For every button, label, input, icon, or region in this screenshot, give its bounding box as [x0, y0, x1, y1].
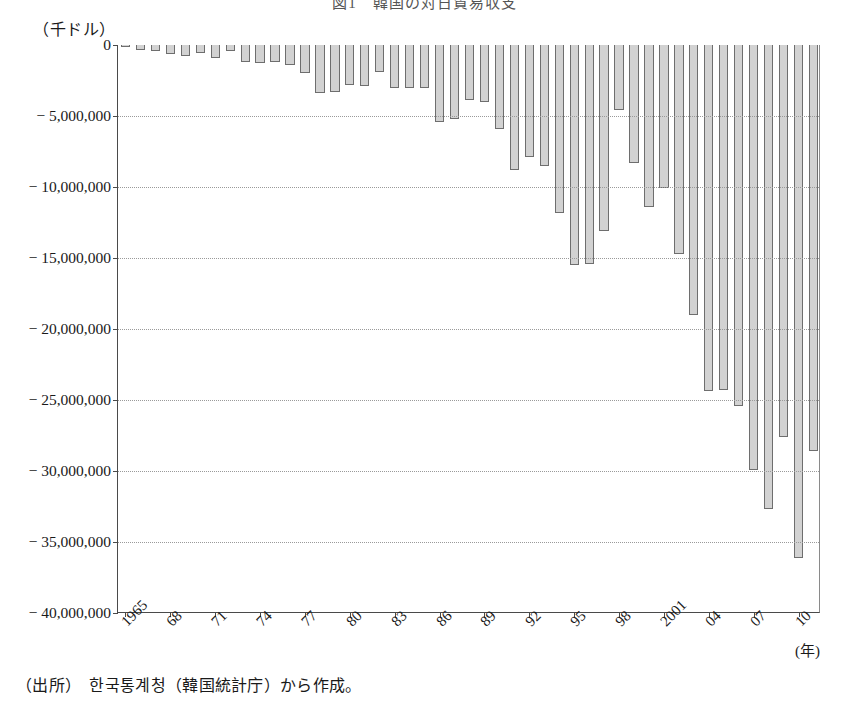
chart-plot-area: [117, 45, 820, 613]
gridline: [118, 187, 819, 188]
bar: [211, 45, 220, 58]
y-tick-mark: [113, 613, 118, 614]
bar: [315, 45, 324, 93]
bar: [614, 45, 623, 110]
bar: [285, 45, 294, 65]
bar: [300, 45, 309, 73]
bar: [585, 45, 594, 264]
bar: [704, 45, 713, 391]
bar: [405, 45, 414, 88]
bar: [809, 45, 818, 451]
bar: [151, 45, 160, 51]
bar: [540, 45, 549, 166]
y-axis-tick-label: − 30,000,000: [0, 462, 111, 480]
bar: [330, 45, 339, 92]
gridline: [118, 471, 819, 472]
y-tick-mark: [113, 187, 118, 188]
bar: [166, 45, 175, 54]
page-title: 図1 韓国の対日貿易収支: [0, 0, 849, 11]
bar: [779, 45, 788, 437]
chart-title-strip: 図1 韓国の対日貿易収支: [0, 0, 849, 11]
y-axis-tick-label: − 5,000,000: [0, 107, 111, 125]
bar: [794, 45, 803, 558]
bar: [375, 45, 384, 72]
bar: [270, 45, 279, 62]
bar: [764, 45, 773, 509]
bar: [644, 45, 653, 207]
bar: [465, 45, 474, 100]
y-tick-mark: [113, 45, 118, 46]
bar: [136, 45, 145, 50]
bar: [241, 45, 250, 62]
y-tick-mark: [113, 258, 118, 259]
y-tick-mark: [113, 116, 118, 117]
bar: [734, 45, 743, 406]
bar: [196, 45, 205, 53]
bar: [360, 45, 369, 86]
y-axis-tick-label: − 15,000,000: [0, 249, 111, 267]
bar: [420, 45, 429, 88]
bar: [345, 45, 354, 85]
bar: [629, 45, 638, 163]
bar: [510, 45, 519, 170]
bar: [689, 45, 698, 315]
bar: [570, 45, 579, 265]
y-axis-tick-label: − 40,000,000: [0, 604, 111, 622]
y-tick-mark: [113, 542, 118, 543]
y-axis-tick-label: − 25,000,000: [0, 391, 111, 409]
y-axis-tick-label: 0: [0, 36, 111, 54]
bar: [255, 45, 264, 63]
bar: [719, 45, 728, 390]
y-tick-mark: [113, 329, 118, 330]
gridline: [118, 116, 819, 117]
y-axis-tick-label: − 20,000,000: [0, 320, 111, 338]
bar: [435, 45, 444, 122]
y-tick-mark: [113, 400, 118, 401]
bar: [674, 45, 683, 254]
gridline: [118, 329, 819, 330]
x-axis-unit-label: (年): [795, 639, 820, 660]
source-note: （出所） 한국통계청（韓国統計庁）から作成。: [16, 672, 362, 696]
y-axis-tick-label: − 10,000,000: [0, 178, 111, 196]
gridline: [118, 258, 819, 259]
bar: [599, 45, 608, 231]
gridline: [118, 542, 819, 543]
bar: [121, 45, 130, 47]
y-axis-tick-label: − 35,000,000: [0, 533, 111, 551]
bar: [390, 45, 399, 88]
bar: [226, 45, 235, 51]
bar: [450, 45, 459, 119]
bar: [181, 45, 190, 56]
bar: [480, 45, 489, 102]
y-tick-mark: [113, 471, 118, 472]
gridline: [118, 400, 819, 401]
bar: [525, 45, 534, 157]
